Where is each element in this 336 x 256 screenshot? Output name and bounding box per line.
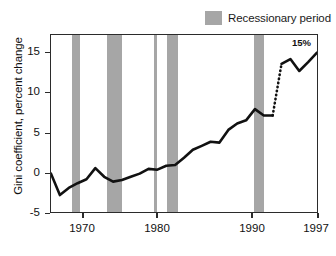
chart-figure: Recessionary period Gini coefficient, pe… [0, 0, 336, 256]
x-tick-mark-1970 [82, 213, 84, 218]
legend-label-recession: Recessionary period [228, 11, 331, 25]
y-tick-label-10: 10 [27, 86, 40, 98]
x-tick-mark-1980 [156, 213, 158, 218]
y-axis-title: Gini coefficient, percent change [12, 36, 24, 196]
x-tick-label-1997: 1997 [303, 222, 329, 234]
chart-line-group [51, 35, 317, 212]
y-tick-label-0: 0 [34, 167, 40, 179]
x-axis: 1970 1980 1990 1997 [0, 213, 336, 256]
end-value-annotation: 15% [292, 38, 311, 48]
x-tick-mark-1997 [317, 213, 319, 218]
plot-area [50, 34, 318, 213]
chart-legend: Recessionary period [205, 10, 331, 26]
y-tick-label-15: 15 [27, 46, 40, 58]
y-tick-label-5: 5 [34, 127, 40, 139]
series-line-revised [282, 53, 317, 71]
legend-swatch-recession-icon [205, 11, 222, 25]
x-tick-label-1980: 1980 [144, 222, 170, 234]
x-tick-label-1990: 1990 [239, 222, 265, 234]
x-tick-label-1970: 1970 [69, 222, 95, 234]
x-tick-mark-1990 [251, 213, 253, 218]
series-line-main [51, 109, 273, 195]
series-line-break-dotted [273, 64, 282, 116]
